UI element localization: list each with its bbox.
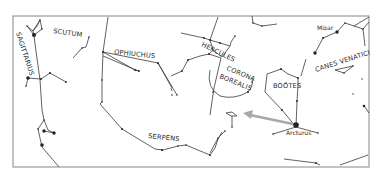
label-bootes: BOÖTES [273, 81, 301, 90]
label-arcturus: Arcturus [286, 129, 311, 136]
chart-frame [13, 16, 369, 167]
star-chart: SAGITTARIUS SCUTUM OPH [0, 0, 380, 178]
star-arcturus [293, 122, 299, 128]
label-mizar: Mizar [317, 24, 334, 31]
